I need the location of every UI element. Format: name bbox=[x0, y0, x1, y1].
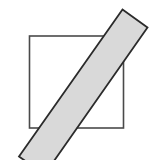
geometry-figure bbox=[0, 0, 158, 160]
figure-canvas bbox=[0, 0, 158, 160]
